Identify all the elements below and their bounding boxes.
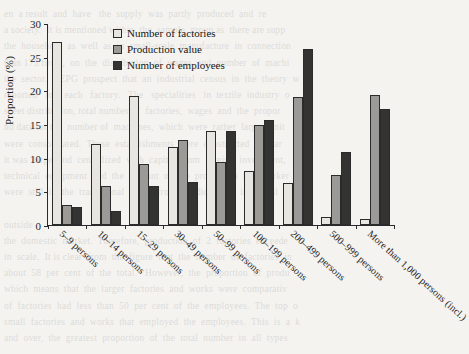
- bar: [341, 152, 351, 225]
- bar: [380, 109, 390, 225]
- x-axis-tick: [240, 225, 241, 229]
- legend-label: Production value: [127, 42, 202, 56]
- bar-group: [317, 24, 355, 225]
- legend-item-production-value: Production value: [113, 42, 225, 56]
- bar: [52, 42, 62, 225]
- bar-group: [240, 24, 278, 225]
- x-axis-tick: [125, 225, 126, 229]
- y-axis-tick-label: 10: [30, 153, 41, 165]
- y-axis-title: Proportion (%): [3, 56, 15, 125]
- x-axis-tick: [317, 225, 318, 229]
- bar: [101, 186, 111, 225]
- bar: [178, 140, 188, 225]
- bar: [244, 171, 254, 225]
- y-axis-tick-label: 0: [36, 220, 42, 232]
- x-axis-tick: [48, 225, 49, 229]
- bar: [216, 162, 226, 225]
- x-axis-tick: [356, 225, 357, 229]
- bar-group: [279, 24, 317, 225]
- bar: [72, 207, 82, 225]
- bar: [139, 164, 149, 225]
- y-axis-tick-label: 25: [30, 52, 41, 64]
- x-axis-tick: [202, 225, 203, 229]
- bar: [321, 217, 331, 225]
- x-axis-tick: [394, 225, 395, 229]
- dark-swatch-icon: [113, 61, 122, 70]
- x-axis-tick: [86, 225, 87, 229]
- y-axis-tick-label: 5: [36, 186, 42, 198]
- legend-item-number-of-factories: Number of factories: [113, 26, 225, 40]
- light-swatch-icon: [113, 29, 122, 38]
- y-axis-tick-label: 15: [30, 119, 41, 131]
- legend-label: Number of factories: [127, 26, 216, 40]
- bar: [293, 97, 303, 225]
- bar: [370, 95, 380, 225]
- bar: [331, 175, 341, 226]
- medium-swatch-icon: [113, 45, 122, 54]
- bar: [129, 96, 139, 225]
- bar: [91, 144, 101, 225]
- bar: [111, 211, 121, 225]
- bar: [149, 186, 159, 225]
- bar: [188, 182, 198, 225]
- x-axis-label: 5–9 persons: [57, 228, 101, 269]
- bar: [62, 205, 72, 225]
- bar: [303, 49, 313, 225]
- bar: [254, 125, 264, 225]
- bar-group: [48, 24, 86, 225]
- bar: [283, 183, 293, 225]
- legend-item-number-of-employees: Number of employees: [113, 58, 225, 72]
- bar: [168, 147, 178, 225]
- x-axis-tick: [163, 225, 164, 229]
- bar: [360, 219, 370, 225]
- legend-label: Number of employees: [127, 58, 225, 72]
- y-axis-tick-label: 20: [30, 85, 41, 97]
- bar-group: [356, 24, 394, 225]
- bar: [226, 131, 236, 225]
- chart-legend: Number of factories Production value Num…: [113, 26, 225, 72]
- bar: [206, 131, 216, 225]
- bar: [264, 120, 274, 225]
- y-axis-tick-label: 30: [30, 18, 41, 30]
- x-axis-tick: [279, 225, 280, 229]
